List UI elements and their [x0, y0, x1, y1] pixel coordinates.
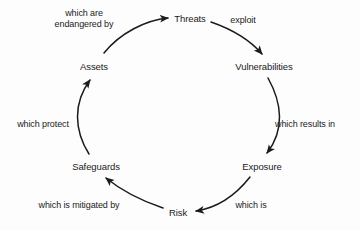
edge-vulnerabilities-to-exposure	[267, 78, 280, 153]
node-risk[interactable]: Risk	[169, 207, 187, 218]
edge-threats-to-vulnerabilities	[211, 22, 262, 54]
node-threats[interactable]: Threats	[174, 13, 206, 24]
edge-label-which-is-mitigated-by: which is mitigated by	[39, 200, 120, 211]
edge-label-exploit: exploit	[230, 15, 255, 26]
node-safeguards[interactable]: Safeguards	[72, 161, 120, 172]
edge-label-which-protect: which protect	[17, 119, 69, 130]
node-assets[interactable]: Assets	[80, 61, 108, 72]
edge-label-which-is: which is	[235, 200, 266, 211]
diagram-canvas: Threats Vulnerabilities Exposure Risk Sa…	[0, 0, 360, 230]
edge-label-which-are-endangered-by: which are endangered by	[55, 8, 114, 30]
cycle-arrows	[0, 0, 360, 230]
node-vulnerabilities[interactable]: Vulnerabilities	[235, 61, 292, 72]
node-exposure[interactable]: Exposure	[242, 161, 281, 172]
edge-safeguards-to-assets	[78, 80, 91, 154]
edge-label-which-results-in: which results in	[275, 119, 335, 130]
